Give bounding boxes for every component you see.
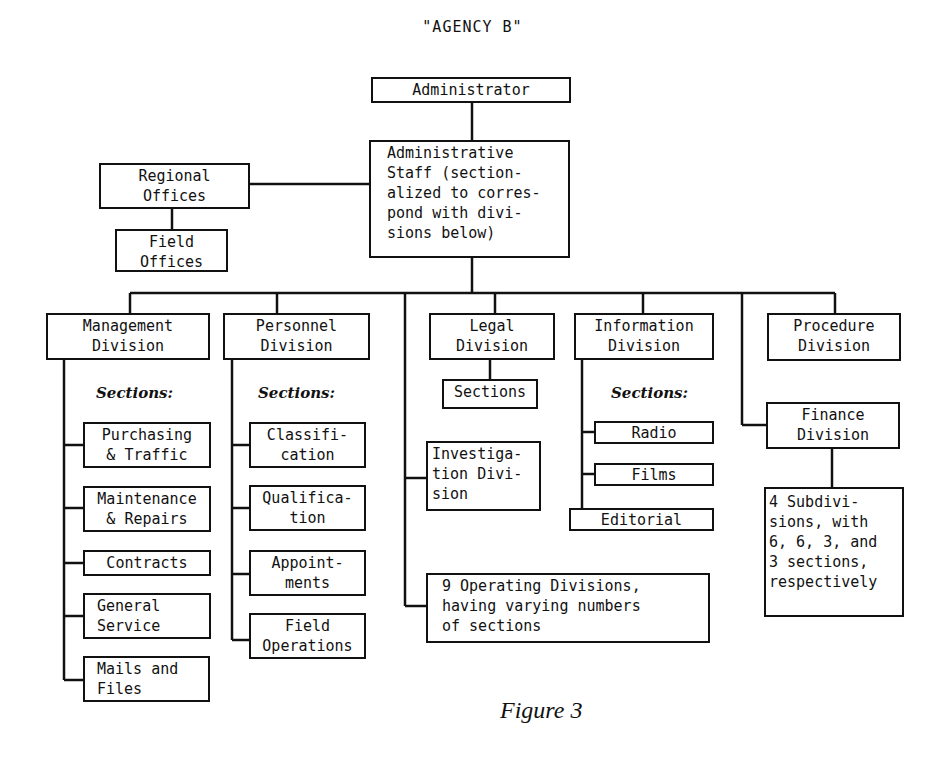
- regional-offices-box: Regional Offices: [99, 163, 250, 209]
- operating-divisions-box: 9 Operating Divisions, having varying nu…: [426, 573, 710, 643]
- field-offices-box: Field Offices: [115, 229, 228, 272]
- section-general-service: General Service: [83, 593, 211, 639]
- section-purchasing-traffic: Purchasing & Traffic: [83, 422, 211, 468]
- section-maintenance-repairs: Maintenance & Repairs: [83, 486, 211, 532]
- investigation-division-box: Investiga- tion Divi- sion: [426, 441, 541, 511]
- section-qualification: Qualifica- tion: [249, 485, 366, 531]
- information-sections-label: Sections:: [611, 384, 688, 402]
- administrative-staff-box: Administrative Staff (section- alized to…: [369, 140, 570, 258]
- administrator-box: Administrator: [371, 77, 571, 103]
- legal-division-box: Legal Division: [429, 313, 555, 360]
- section-radio: Radio: [594, 421, 714, 444]
- section-classification: Classifi- cation: [249, 422, 366, 468]
- section-contracts: Contracts: [83, 550, 211, 576]
- finance-subdivisions-box: 4 Subdivi- sions, with 6, 6, 3, and 3 se…: [764, 487, 904, 617]
- personnel-division-box: Personnel Division: [223, 313, 370, 360]
- management-division-box: Management Division: [46, 313, 210, 360]
- personnel-sections-label: Sections:: [258, 384, 335, 402]
- procedure-division-box: Procedure Division: [767, 313, 901, 361]
- legal-sections-box: Sections: [442, 379, 538, 409]
- section-editorial: Editorial: [569, 508, 714, 531]
- information-division-box: Information Division: [574, 313, 714, 360]
- section-films: Films: [594, 463, 714, 486]
- section-mails-files: Mails and Files: [83, 656, 210, 702]
- management-sections-label: Sections:: [96, 384, 173, 402]
- finance-division-box: Finance Division: [766, 402, 900, 449]
- figure-caption: Figure 3: [500, 697, 582, 724]
- section-field-operations: Field Operations: [249, 613, 366, 659]
- section-appointments: Appoint- ments: [249, 550, 366, 596]
